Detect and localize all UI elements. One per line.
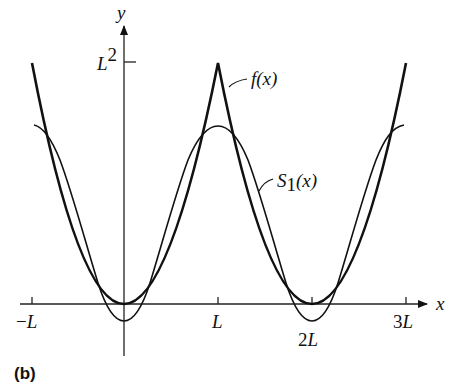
y-tick-label-L2: L2 [96,44,117,74]
s1-label: S1(x) [277,170,317,195]
x-ticks [32,297,406,304]
x-tick-label-2L: 2L [298,329,318,350]
fourier-figure: y x L2 −L L 2L 3L f(x) S1(x) (b) [0,0,459,387]
y-axis-label: y [115,2,126,23]
panel-label: (b) [14,364,36,383]
s1-curve [34,125,404,321]
f-curve [32,63,406,304]
x-tick-label-L: L [211,311,223,332]
f-label-leader [229,79,247,87]
x-tick-label-neg-L: −L [16,311,37,332]
x-axis-label: x [435,293,445,314]
x-tick-label-3L: 3L [393,311,413,332]
f-label: f(x) [251,68,277,90]
s1-label-leader [259,179,273,191]
